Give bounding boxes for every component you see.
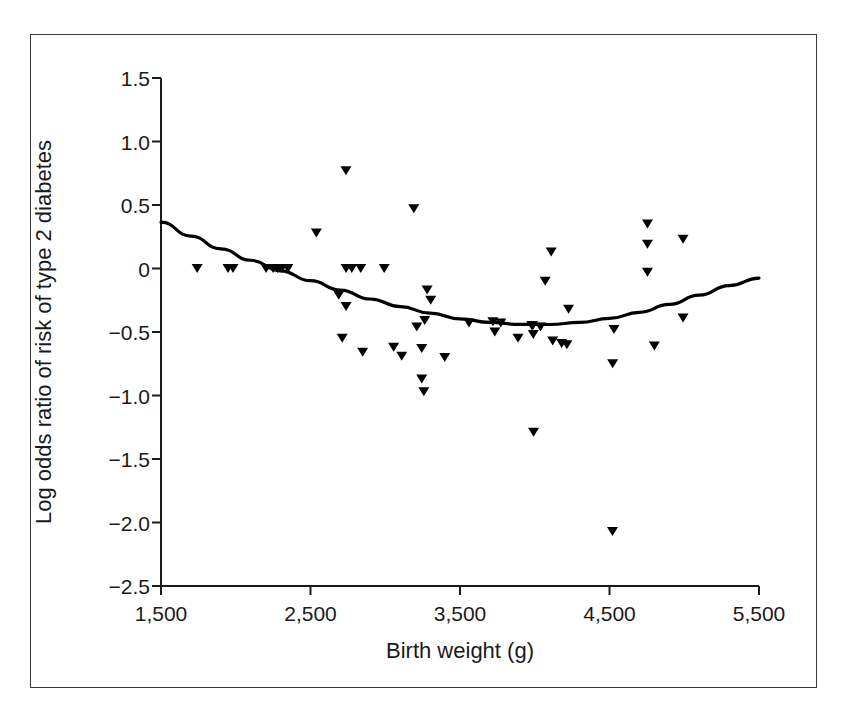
scatter-marker	[341, 302, 352, 311]
scatter-marker	[408, 204, 419, 213]
scatter-marker	[422, 286, 433, 295]
scatter-marker	[463, 319, 474, 328]
y-axis-tick-label: −2.5	[60, 576, 150, 597]
scatter-marker	[357, 348, 368, 357]
scatter-marker	[642, 268, 653, 277]
scatter-marker	[563, 305, 574, 314]
x-axis-tick-label: 1,500	[135, 603, 188, 624]
x-axis-title: Birth weight (g)	[386, 640, 534, 662]
scatter-marker	[649, 341, 660, 350]
scatter-marker	[396, 352, 407, 361]
scatter-marker	[337, 334, 348, 343]
x-axis-tick-label: 2,500	[284, 603, 337, 624]
y-axis-tick-label: 0.5	[60, 195, 150, 216]
scatter-marker	[678, 235, 689, 244]
scatter-marker	[678, 314, 689, 323]
scatter-marker	[418, 387, 429, 396]
scatter-marker	[192, 264, 203, 273]
scatter-marker	[540, 277, 551, 286]
scatter-marker	[607, 527, 618, 536]
y-axis-tick-label: −2.0	[60, 512, 150, 533]
scatter-marker	[311, 228, 322, 237]
y-axis-tick-label: −1.5	[60, 449, 150, 470]
scatter-marker	[340, 166, 351, 175]
scatter-marker	[546, 247, 557, 256]
scatter-marker	[513, 334, 524, 343]
figure-root: 1.51.00.50−0.5−1.0−1.5−2.0−2.5 1,5002,50…	[0, 0, 846, 715]
scatter-marker	[388, 343, 399, 352]
y-axis-tick-label: 0	[60, 258, 150, 279]
x-axis-ticks	[161, 586, 759, 595]
scatter-marker	[642, 220, 653, 229]
fitted-curve	[161, 222, 759, 324]
scatter-marker	[528, 330, 539, 339]
y-axis-ticks	[152, 78, 161, 586]
y-axis-tick-label: 1.0	[60, 131, 150, 152]
scatter-marker	[416, 344, 427, 353]
scatter-marker	[642, 240, 653, 249]
scatter-marker	[547, 336, 558, 345]
y-axis-tick-label: −0.5	[60, 322, 150, 343]
axes-group	[152, 78, 759, 595]
scatter-markers	[192, 166, 689, 536]
scatter-marker	[439, 353, 450, 362]
scatter-marker	[425, 296, 436, 305]
y-axis-tick-label: 1.5	[60, 68, 150, 89]
scatter-marker	[411, 322, 422, 331]
x-axis-tick-label: 3,500	[434, 603, 487, 624]
y-axis-tick-label: −1.0	[60, 385, 150, 406]
scatter-marker	[355, 264, 366, 273]
x-axis-tick-label: 5,500	[733, 603, 786, 624]
scatter-marker	[608, 325, 619, 334]
scatter-marker	[333, 291, 344, 300]
scatter-marker	[489, 328, 500, 337]
scatter-marker	[528, 428, 539, 437]
scatter-marker	[379, 264, 390, 273]
scatter-marker	[607, 359, 618, 368]
y-axis-title: Log odds ratio of risk of type 2 diabete…	[33, 140, 55, 524]
x-axis-tick-label: 4,500	[583, 603, 636, 624]
chart-plot-area	[0, 0, 846, 715]
scatter-marker	[416, 374, 427, 383]
